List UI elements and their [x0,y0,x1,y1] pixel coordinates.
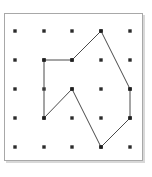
grid-dot[interactable] [13,116,16,119]
grid-dot[interactable] [70,116,73,119]
polygon-vertex[interactable] [42,58,45,61]
grid-dot[interactable] [99,87,102,90]
screenshot-canvas [0,0,152,177]
polygon-vertex[interactable] [99,29,102,32]
grid-dot[interactable] [13,87,16,90]
grid-dot[interactable] [128,29,131,32]
polygon-layer [44,31,130,147]
grid-dot[interactable] [128,58,131,61]
grid-dot[interactable] [70,145,73,148]
grid-dot[interactable] [13,58,16,61]
polygon-vertex[interactable] [99,145,102,148]
grid-dot[interactable] [70,29,73,32]
arrow-polygon-path[interactable] [44,31,130,147]
polygon-vertex-layer [42,29,131,148]
polygon-vertex[interactable] [70,87,73,90]
grid-dot[interactable] [128,145,131,148]
polygon-vertex[interactable] [128,87,131,90]
grid-dot[interactable] [42,145,45,148]
geoboard-svg [0,0,152,177]
polygon-vertex[interactable] [70,58,73,61]
polygon-vertex[interactable] [128,116,131,119]
grid-dot[interactable] [42,29,45,32]
grid-dot[interactable] [13,29,16,32]
grid-dot[interactable] [99,116,102,119]
grid-dot[interactable] [13,145,16,148]
grid-dot[interactable] [99,58,102,61]
polygon-vertex[interactable] [42,116,45,119]
